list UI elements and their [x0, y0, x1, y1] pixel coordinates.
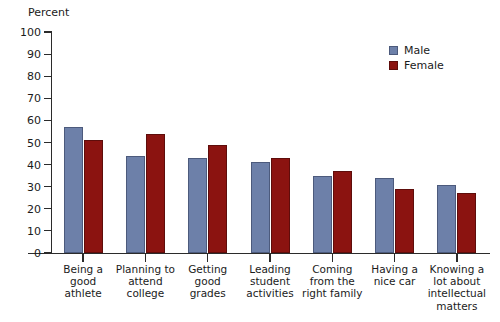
x-axis-label-line: Knowing a [425, 263, 489, 275]
y-tick [44, 142, 52, 143]
x-axis-label-line: college [113, 287, 177, 299]
y-tick-label: 30 [0, 182, 41, 193]
legend-item-male: Male [389, 43, 444, 58]
y-tick [44, 76, 52, 77]
x-axis-label-line: lot about [425, 275, 489, 287]
bar-female-5 [395, 189, 414, 253]
x-axis-label: Being agoodathlete [51, 263, 115, 300]
y-tick [44, 98, 52, 99]
x-axis-label-line: Having a [362, 263, 426, 275]
x-axis-line [28, 253, 490, 254]
x-axis-label-line: good [176, 275, 240, 287]
y-tick [44, 164, 52, 165]
y-tick-label: 70 [0, 93, 41, 104]
x-axis-label-line: Planning to [113, 263, 177, 275]
x-axis-label: Having anice car [362, 263, 426, 287]
y-tick-label: 90 [0, 49, 41, 60]
legend-swatch-icon [389, 61, 398, 70]
bar-male-1 [126, 156, 145, 253]
bar-female-3 [271, 158, 290, 253]
y-tick-label: 40 [0, 160, 41, 171]
bar-female-4 [333, 171, 352, 253]
x-axis-label-line: grades [176, 287, 240, 299]
y-tick-label: 20 [0, 204, 41, 215]
y-tick-label: 10 [0, 226, 41, 237]
x-axis-label-line: student [238, 275, 302, 287]
x-axis-label-line: attend [113, 275, 177, 287]
x-axis-label-line: intellectual [425, 287, 489, 299]
y-tick [44, 120, 52, 121]
y-tick [44, 186, 52, 187]
x-axis-label: Gettinggoodgrades [176, 263, 240, 300]
x-axis-label: Leadingstudentactivities [238, 263, 302, 300]
x-tick [207, 254, 208, 262]
y-tick [44, 252, 52, 253]
chart-legend: MaleFemale [389, 43, 444, 73]
x-tick [394, 254, 395, 262]
y-tick-label: 50 [0, 138, 41, 149]
x-axis-label-line: from the [300, 275, 364, 287]
legend-item-female: Female [389, 58, 444, 73]
y-tick-label: 0 [0, 248, 41, 259]
x-axis-label-line: nice car [362, 275, 426, 287]
bar-male-6 [437, 185, 456, 254]
y-tick [44, 31, 52, 32]
x-axis-label-line: Leading [238, 263, 302, 275]
y-tick-label: 100 [0, 27, 41, 38]
bar-female-1 [146, 134, 165, 253]
x-axis-label-line: Being a [51, 263, 115, 275]
x-axis-label-line: athlete [51, 287, 115, 299]
y-tick [44, 54, 52, 55]
bar-male-0 [64, 127, 83, 253]
bar-female-6 [457, 193, 476, 253]
bar-chart: Percent 1009080706050403020100 Being ago… [0, 0, 500, 322]
x-axis-label: Knowing alot aboutintellectualmatters [425, 263, 489, 312]
bar-male-5 [375, 178, 394, 253]
x-axis-label-line: Coming [300, 263, 364, 275]
x-axis-label-line: Getting [176, 263, 240, 275]
x-tick [145, 254, 146, 262]
y-tick [44, 230, 52, 231]
x-axis-label-line: right family [300, 287, 364, 299]
legend-label: Female [404, 59, 444, 73]
x-tick [82, 254, 83, 262]
x-axis-label: Planning toattendcollege [113, 263, 177, 300]
bar-female-2 [208, 145, 227, 253]
legend-label: Male [404, 44, 430, 58]
bar-female-0 [84, 140, 103, 253]
legend-swatch-icon [389, 46, 398, 55]
bar-male-3 [251, 162, 270, 253]
x-tick [269, 254, 270, 262]
x-axis-label: Comingfrom theright family [300, 263, 364, 300]
x-tick [332, 254, 333, 262]
bar-male-4 [313, 176, 332, 253]
x-axis-label-line: good [51, 275, 115, 287]
y-tick-label: 60 [0, 115, 41, 126]
y-axis-title: Percent [28, 7, 69, 19]
x-axis-label-line: activities [238, 287, 302, 299]
x-tick [456, 254, 457, 262]
y-tick-label: 80 [0, 71, 41, 82]
bar-male-2 [188, 158, 207, 253]
x-axis-label-line: matters [425, 300, 489, 312]
y-tick [44, 208, 52, 209]
